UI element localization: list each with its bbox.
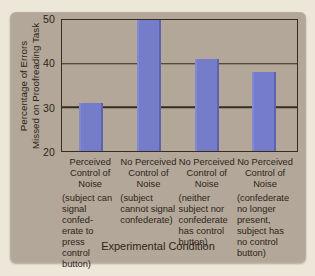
category-detail: (subject cannot signal confederate) (120, 193, 176, 226)
x-axis-title: Experimental Condition (10, 240, 306, 252)
bar-2 (137, 20, 161, 151)
category-label-2: No Perceived Control of Noise(subject ca… (119, 157, 177, 226)
y-tick-label: 40 (43, 57, 55, 69)
category-name: No Perceived Control of Noise (177, 157, 237, 190)
gridline (62, 63, 297, 65)
figure-page: Percentage of Errors Missed on Proofread… (0, 0, 315, 276)
bar-3 (195, 59, 219, 151)
y-tick-label: 30 (43, 102, 55, 114)
category-name: No Perceived Control of Noise (235, 157, 295, 190)
y-tick-label: 20 (43, 146, 55, 158)
category-labels: Perceived Control of Noise(subject can s… (61, 157, 298, 270)
category-name: No Perceived Control of Noise (118, 157, 178, 190)
y-tick-label: 50 (43, 13, 55, 25)
plot-area (61, 19, 298, 152)
category-label-3: No Perceived Control of Noise(neither su… (178, 157, 236, 248)
category-detail: (subject can signal confed- erate to pre… (62, 193, 118, 270)
y-axis-ticks: 20304050 (10, 19, 55, 152)
category-label-1: Perceived Control of Noise(subject can s… (61, 157, 119, 270)
bar-1 (79, 103, 103, 151)
bar-4 (252, 72, 276, 151)
chart-panel: Percentage of Errors Missed on Proofread… (10, 12, 306, 263)
category-name: Perceived Control of Noise (60, 157, 120, 190)
